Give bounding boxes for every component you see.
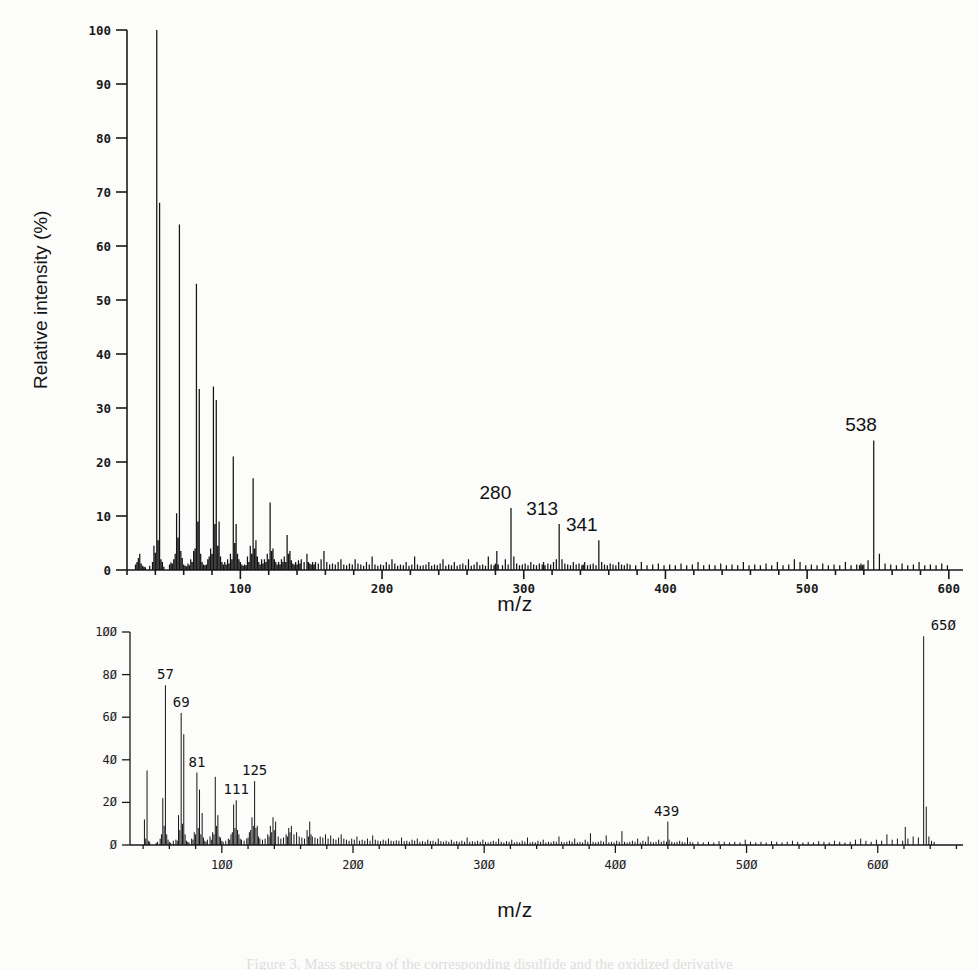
y-tick-label: 50 — [96, 293, 111, 308]
top-x-axis-title: m/z — [455, 592, 575, 616]
peak-annotation-label: 111 — [224, 781, 249, 797]
y-tick-label: 30 — [96, 401, 111, 416]
y-tick-label: 4Ø — [103, 753, 118, 767]
y-tick-label: 8Ø — [103, 668, 118, 682]
bottom-mass-spectrum-panel: Ø2Ø4Ø6Ø8Ø1ØØ1ØØ2ØØ3ØØ4ØØ5ØØ6ØØ5769811111… — [0, 615, 979, 915]
peak-annotation-label: 341 — [566, 514, 598, 535]
x-tick-label: 500 — [796, 581, 819, 596]
x-tick-label: 3ØØ — [473, 858, 495, 872]
y-tick-label: 6Ø — [103, 710, 118, 724]
y-tick-label: 10 — [96, 509, 111, 524]
y-tick-label: 0 — [103, 563, 111, 578]
y-tick-label: 80 — [96, 131, 111, 146]
y-tick-label: 40 — [96, 347, 111, 362]
peak-annotation-label: 538 — [845, 414, 877, 435]
figure-caption: Figure 3. Mass spectra of the correspond… — [0, 956, 979, 970]
bottom-x-axis-title: m/z — [455, 898, 575, 922]
x-tick-label: 6ØØ — [867, 858, 889, 872]
top-mass-spectrum-panel: 0102030405060708090100100200300400500600… — [0, 0, 979, 615]
y-tick-label: 2Ø — [103, 795, 118, 809]
peak-annotation-label: 313 — [526, 498, 558, 519]
y-tick-label: 90 — [96, 77, 111, 92]
bottom-spectrum-plot: Ø2Ø4Ø6Ø8Ø1ØØ1ØØ2ØØ3ØØ4ØØ5ØØ6ØØ5769811111… — [0, 615, 979, 915]
x-tick-label: 200 — [371, 581, 394, 596]
y-tick-label: 100 — [88, 23, 111, 38]
y-tick-label: Ø — [110, 838, 118, 852]
x-tick-label: 400 — [654, 581, 677, 596]
figure-page: Relative intensity (%) 01020304050607080… — [0, 0, 979, 970]
x-tick-label: 600 — [938, 581, 961, 596]
top-spectrum-plot: 0102030405060708090100100200300400500600… — [0, 0, 979, 615]
peak-annotation-label: 125 — [242, 762, 267, 778]
x-tick-label: 5ØØ — [736, 858, 758, 872]
peak-annotation-label: 57 — [157, 666, 174, 682]
peak-series — [136, 30, 948, 570]
peak-annotation-label: 81 — [188, 754, 205, 770]
y-tick-label: 20 — [96, 455, 111, 470]
peak-annotation-label: 69 — [173, 694, 190, 710]
peak-annotation-label: 439 — [654, 803, 679, 819]
peak-annotation-label: 65Ø — [931, 617, 957, 633]
y-tick-label: 1ØØ — [95, 625, 117, 639]
x-tick-label: 4ØØ — [605, 858, 627, 872]
y-tick-label: 70 — [96, 185, 111, 200]
x-tick-label: 100 — [229, 581, 252, 596]
peak-series — [144, 636, 936, 845]
x-tick-label: 1ØØ — [211, 858, 233, 872]
y-tick-label: 60 — [96, 239, 111, 254]
peak-annotation-label: 280 — [480, 482, 512, 503]
x-tick-label: 2ØØ — [342, 858, 364, 872]
